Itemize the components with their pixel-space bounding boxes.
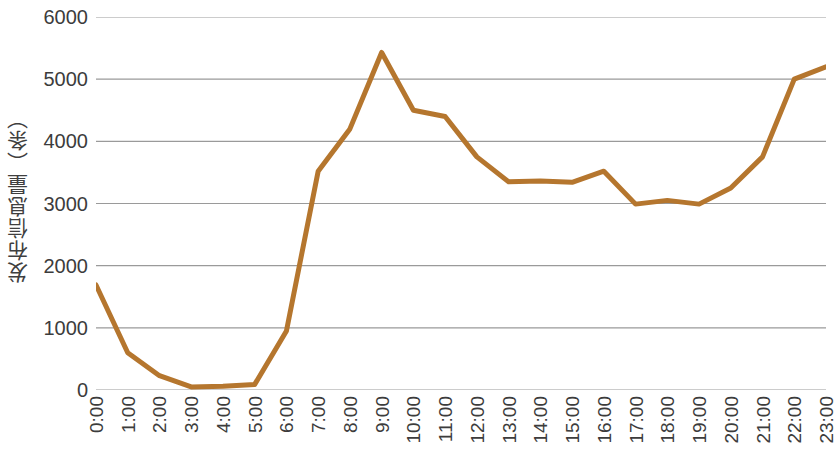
x-axis-tick-label: 12:00 [467,396,489,444]
x-axis-tick-label: 10:00 [403,396,425,444]
x-axis-tick-label: 6:00 [276,396,298,433]
x-axis-tick-label: 4:00 [213,396,235,433]
x-axis-tick-label: 17:00 [626,396,648,444]
x-axis-tick-labels: 0:001:002:003:004:005:006:007:008:009:00… [96,392,826,455]
data-series-line [96,52,826,386]
x-axis-tick-label: 7:00 [308,396,330,433]
x-axis-tick-label: 22:00 [784,396,806,444]
x-axis-tick-label: 14:00 [530,396,552,444]
x-axis-tick-label: 0:00 [86,396,108,433]
x-axis-tick-label: 20:00 [721,396,743,444]
x-axis-tick-label: 23:00 [816,396,838,444]
x-axis-tick-label: 1:00 [118,396,140,433]
y-axis-tick-label: 5000 [44,68,89,91]
x-axis-tick-label: 18:00 [657,396,679,444]
x-axis-tick-label: 3:00 [181,396,203,433]
y-axis-tick-labels: 0100020003000400050006000 [30,0,88,400]
x-axis-tick-label: 21:00 [753,396,775,444]
chart-canvas [96,17,826,390]
y-axis-tick-label: 3000 [44,192,89,215]
y-axis-tick-label: 1000 [44,316,89,339]
plot-area [96,17,826,390]
x-axis-tick-label: 16:00 [594,396,616,444]
gridlines [96,17,826,390]
x-axis-tick-label: 8:00 [340,396,362,433]
x-axis-tick-label: 19:00 [689,396,711,444]
x-axis-tick-label: 11:00 [435,396,457,442]
x-axis-tick-label: 2:00 [149,396,171,433]
x-axis-tick-label: 5:00 [245,396,267,433]
x-axis-tick-label: 13:00 [499,396,521,444]
x-axis-tick-label: 9:00 [372,396,394,433]
y-axis-tick-label: 6000 [44,6,89,29]
y-axis-tick-label: 2000 [44,254,89,277]
x-axis-tick-label: 15:00 [562,396,584,444]
y-axis-tick-label: 4000 [44,130,89,153]
